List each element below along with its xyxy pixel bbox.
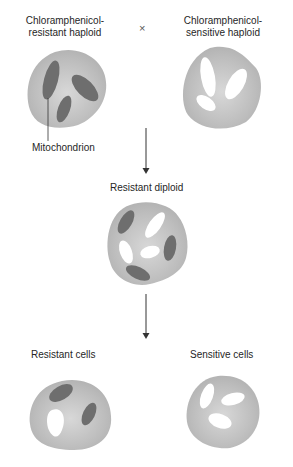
label-line: resistant haploid [22, 27, 108, 39]
resistant-haploid-cell [28, 50, 107, 141]
label-resistant-diploid: Resistant diploid [110, 182, 183, 194]
resistant-diploid-cell [107, 202, 187, 285]
sensitive-progeny-cell [187, 376, 260, 448]
arrow-down-icon [143, 128, 150, 174]
label-sensitive-haploid: Chloramphenicol- sensitive haploid [180, 15, 266, 39]
label-line: Chloramphenicol- [180, 15, 266, 27]
sensitive-haploid-cell [183, 47, 261, 129]
label-resistant-haploid: Chloramphenicol- resistant haploid [22, 15, 108, 39]
resistant-progeny-cell [30, 380, 111, 450]
arrow-down-icon [143, 294, 150, 339]
label-mitochondrion: Mitochondrion [32, 142, 95, 154]
genetics-diagram [0, 0, 293, 467]
label-resistant-cells: Resistant cells [31, 349, 95, 361]
label-line: sensitive haploid [180, 27, 266, 39]
label-line: Chloramphenicol- [22, 15, 108, 27]
label-sensitive-cells: Sensitive cells [190, 349, 253, 361]
cross-symbol: × [139, 22, 145, 34]
